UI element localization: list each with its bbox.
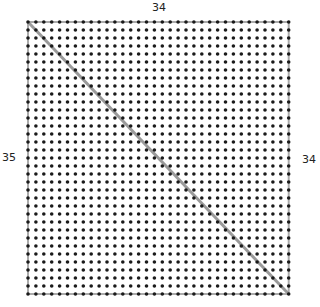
dot-grid	[0, 0, 320, 307]
